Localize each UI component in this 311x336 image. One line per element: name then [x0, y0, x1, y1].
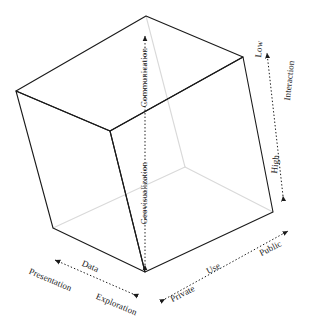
cube-left-face — [16, 91, 145, 272]
cube-right-face — [110, 57, 273, 272]
cube-hidden-edges — [53, 16, 273, 228]
label-geovisualization: Geovisualization — [140, 162, 149, 225]
label-high: High — [270, 155, 281, 174]
cube-svg — [0, 0, 311, 336]
cube-top-face — [16, 16, 243, 131]
interaction-axis-line — [267, 53, 283, 196]
geovisualization-cube-figure: Communication Geovisualization Low Inter… — [0, 0, 311, 336]
hidden-edge-back-to-front-top — [146, 16, 185, 167]
hidden-edge-back-to-bottom-left — [53, 167, 185, 228]
label-low: Low — [254, 40, 265, 58]
hidden-edge-back-to-bottom-right — [185, 167, 273, 212]
label-communication: Communication — [140, 48, 149, 107]
